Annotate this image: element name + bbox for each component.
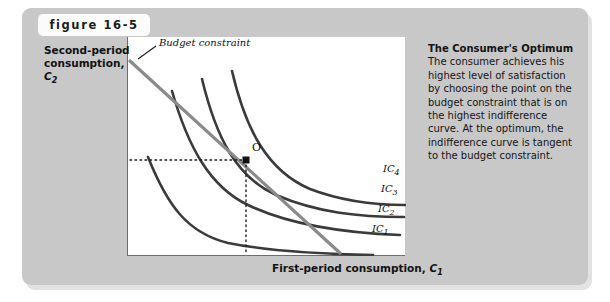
- ic1-text: IC: [372, 223, 384, 234]
- indifference-curve-1-label: IC1: [372, 223, 389, 237]
- y-axis-subscript: 2: [52, 76, 58, 85]
- caption-body: The consumer achieves his highest level …: [428, 56, 572, 161]
- indifference-curve-plot: [128, 37, 406, 256]
- x-axis-title: First-period consumption, C1: [272, 262, 443, 277]
- plot-area: Budget constraint O IC1 IC2 IC3 IC4: [127, 37, 405, 256]
- caption-title: The Consumer's Optimum: [428, 43, 573, 54]
- indifference-curve-1: [148, 157, 373, 255]
- y-axis-title-line2: consumption,: [44, 57, 124, 69]
- indifference-curve-2-label: IC2: [378, 203, 395, 217]
- indifference-curve-3-label: IC3: [381, 183, 398, 197]
- budget-constraint-leader-line: [138, 46, 156, 59]
- y-axis-title-line1: Second-period: [44, 44, 130, 56]
- budget-constraint-line: [130, 61, 340, 253]
- indifference-curve-4-label: IC4: [383, 163, 400, 177]
- figure-container: figure 16-5 Second-period consumption, C…: [0, 0, 610, 302]
- optimum-point-label: O: [252, 141, 261, 154]
- figure-number-label: figure 16-5: [38, 14, 150, 36]
- ic1-subscript: 1: [384, 228, 389, 237]
- ic3-text: IC: [381, 183, 393, 194]
- y-axis-title: Second-period consumption, C2: [44, 44, 130, 87]
- ic2-text: IC: [378, 203, 390, 214]
- budget-constraint-label: Budget constraint: [159, 37, 250, 48]
- indifference-curve-2: [172, 91, 400, 235]
- x-axis-title-text: First-period consumption,: [272, 262, 426, 274]
- ic3-subscript: 3: [393, 188, 398, 197]
- ic4-text: IC: [383, 163, 395, 174]
- ic4-subscript: 4: [395, 168, 400, 177]
- y-axis-variable: C: [44, 70, 52, 82]
- x-axis-variable: C: [429, 262, 437, 274]
- figure-number-tab: figure 16-5: [38, 14, 150, 36]
- figure-caption: The Consumer's Optimum The consumer achi…: [428, 42, 580, 163]
- x-axis-subscript: 1: [437, 268, 443, 277]
- ic2-subscript: 2: [390, 208, 395, 217]
- optimum-point-marker: [243, 157, 250, 164]
